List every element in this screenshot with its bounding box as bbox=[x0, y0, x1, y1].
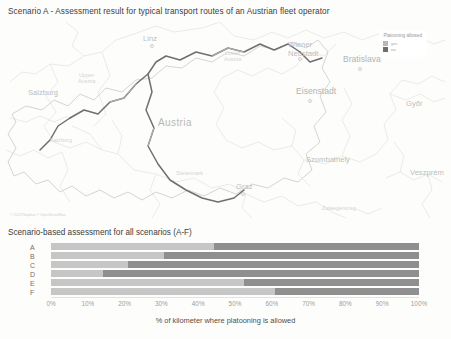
bar-row[interactable] bbox=[51, 252, 419, 261]
bar-segment-yes[interactable] bbox=[51, 288, 275, 295]
legend-item-yes[interactable]: yes bbox=[383, 41, 422, 46]
x-tick-label: 0% bbox=[46, 300, 55, 307]
bar-segment-yes[interactable] bbox=[51, 279, 244, 286]
map-legend: Platooning allowed yes no bbox=[379, 30, 427, 57]
legend-swatch-no bbox=[383, 47, 388, 52]
bar-row[interactable] bbox=[51, 243, 419, 252]
map-panel-title: Scenario A - Assessment result for typic… bbox=[8, 7, 330, 16]
x-tick-label: 100% bbox=[411, 300, 427, 307]
category-label-b: B bbox=[30, 252, 46, 261]
bar-row[interactable] bbox=[51, 279, 419, 288]
chart-panel-title: Scenario-based assessment for all scenar… bbox=[8, 228, 192, 237]
category-label-c: C bbox=[30, 261, 46, 270]
x-tick-label: 90% bbox=[376, 300, 389, 307]
legend-label-no: no bbox=[391, 47, 396, 52]
category-axis: ABCDEF bbox=[30, 243, 46, 297]
x-axis-title: % of kilometer where platooning is allow… bbox=[0, 316, 451, 325]
x-tick-label: 10% bbox=[81, 300, 94, 307]
category-label-f: F bbox=[30, 288, 46, 297]
bar-segment-no[interactable] bbox=[244, 279, 419, 286]
category-label-d: D bbox=[30, 270, 46, 279]
x-axis-ticks: 0%10%20%30%40%50%60%70%80%90%100% bbox=[51, 300, 419, 310]
bar-segment-no[interactable] bbox=[164, 252, 419, 259]
x-tick-label: 70% bbox=[302, 300, 315, 307]
bar-row[interactable] bbox=[51, 261, 419, 270]
x-axis-line bbox=[51, 297, 419, 298]
legend-label-yes: yes bbox=[391, 41, 398, 46]
legend-item-no[interactable]: no bbox=[383, 47, 422, 52]
bar-segment-no[interactable] bbox=[128, 261, 419, 268]
bar-segment-yes[interactable] bbox=[51, 270, 103, 277]
bar-segment-no[interactable] bbox=[214, 243, 419, 250]
figure-root: Scenario A - Assessment result for typic… bbox=[0, 0, 451, 339]
bar-segment-no[interactable] bbox=[275, 288, 419, 295]
x-tick-label: 30% bbox=[155, 300, 168, 307]
bar-segment-yes[interactable] bbox=[51, 243, 214, 250]
map-attribution: © 2023 Mapbox © OpenStreetMap bbox=[10, 213, 65, 217]
x-tick-label: 20% bbox=[118, 300, 131, 307]
bar-row[interactable] bbox=[51, 288, 419, 297]
x-tick-label: 80% bbox=[339, 300, 352, 307]
x-tick-label: 50% bbox=[229, 300, 242, 307]
bar-segment-no[interactable] bbox=[103, 270, 419, 277]
category-label-a: A bbox=[30, 243, 46, 252]
bar-segment-yes[interactable] bbox=[51, 252, 164, 259]
x-tick-label: 40% bbox=[192, 300, 205, 307]
bar-chart: ABCDEF 0%10%20%30%40%50%60%70%80%90%100%… bbox=[0, 238, 451, 334]
x-tick-label: 60% bbox=[265, 300, 278, 307]
bar-segment-yes[interactable] bbox=[51, 261, 128, 268]
bar-row[interactable] bbox=[51, 270, 419, 279]
category-label-e: E bbox=[30, 279, 46, 288]
legend-swatch-yes bbox=[383, 41, 388, 46]
legend-title: Platooning allowed bbox=[383, 33, 422, 38]
bar-series-container bbox=[51, 243, 419, 297]
map-panel[interactable]: Linz UpperAustria LowerAustria Salzburg … bbox=[6, 22, 445, 220]
